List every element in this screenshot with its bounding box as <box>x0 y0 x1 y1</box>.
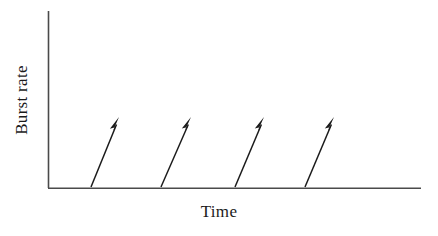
ramp-arrow-2 <box>161 117 191 187</box>
figure-canvas: Burst rate Time <box>0 0 438 236</box>
ramp-arrow-3 <box>235 117 264 187</box>
ramp-arrow-1 <box>91 117 119 187</box>
y-axis-label-container: Burst rate <box>0 0 44 200</box>
x-axis-label: Time <box>0 202 438 222</box>
ramp-arrow-4 <box>305 117 334 187</box>
y-axis-label: Burst rate <box>12 65 32 135</box>
plot-area <box>0 0 438 236</box>
